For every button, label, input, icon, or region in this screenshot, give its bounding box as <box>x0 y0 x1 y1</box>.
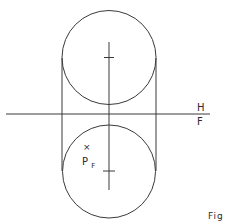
projection-diagram: × P F H F Fig <box>0 0 229 221</box>
point-marker: × <box>83 142 91 152</box>
point-label: P F <box>82 156 95 170</box>
figure-caption: Fig <box>208 211 224 221</box>
plane-label-h: H <box>197 102 205 113</box>
point-label-subscript: F <box>91 162 95 170</box>
plane-label-f: F <box>197 116 203 127</box>
point-label-name: P <box>82 156 88 167</box>
